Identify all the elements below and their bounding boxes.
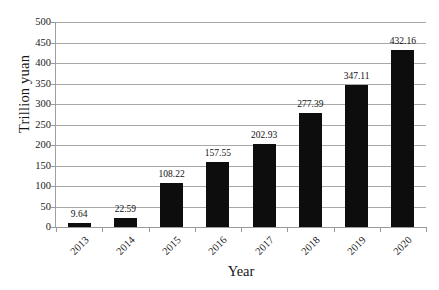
x-tick-label: 2018: [299, 234, 322, 257]
x-tick-label: 2017: [253, 234, 276, 257]
gridline: [56, 125, 426, 126]
y-tick-mark: [51, 207, 56, 208]
bar[interactable]: [160, 183, 183, 227]
x-tick-label: 2020: [392, 234, 415, 257]
bar-value-label: 202.93: [234, 131, 294, 141]
gridline: [56, 145, 426, 146]
y-tick-mark: [51, 63, 56, 64]
y-tick-label: 400: [21, 58, 51, 69]
x-tick-mark: [426, 227, 427, 232]
x-tick-label: 2019: [345, 234, 368, 257]
y-tick-label: 250: [21, 120, 51, 131]
gridline: [56, 84, 426, 85]
bar-value-label: 22.59: [95, 205, 155, 215]
gridline: [56, 63, 426, 64]
x-tick-mark: [380, 227, 381, 232]
bar[interactable]: [391, 50, 414, 227]
x-axis-tick-labels: 20132014201520162017201820192020: [56, 227, 426, 263]
x-tick-mark: [56, 227, 57, 232]
x-tick-label: 2015: [160, 234, 183, 257]
y-tick-mark: [51, 166, 56, 167]
x-tick-label-wrap: 2017: [244, 235, 284, 253]
y-tick-mark: [51, 145, 56, 146]
gridline: [56, 22, 426, 23]
gridline: [56, 186, 426, 187]
bar[interactable]: [206, 162, 229, 227]
bar-value-label: 108.22: [142, 170, 202, 180]
x-tick-mark: [287, 227, 288, 232]
y-tick-mark: [51, 84, 56, 85]
y-tick-mark: [51, 22, 56, 23]
x-tick-label-wrap: 2013: [59, 235, 99, 253]
x-tick-label: 2014: [114, 234, 137, 257]
y-tick-mark: [51, 186, 56, 187]
y-tick-label: 450: [21, 38, 51, 49]
x-tick-mark: [334, 227, 335, 232]
x-tick-label-wrap: 2015: [152, 235, 192, 253]
bar[interactable]: [299, 113, 322, 227]
y-axis-tick-labels: 500450400350300250200150100500: [19, 22, 51, 227]
bar[interactable]: [114, 218, 137, 227]
gridline: [56, 43, 426, 44]
gridline: [56, 104, 426, 105]
y-tick-label: 350: [21, 79, 51, 90]
y-tick-label: 50: [21, 202, 51, 213]
x-tick-label-wrap: 2019: [337, 235, 377, 253]
x-tick-mark: [102, 227, 103, 232]
y-tick-label: 0: [21, 222, 51, 233]
y-tick-mark: [51, 43, 56, 44]
y-tick-label: 300: [21, 99, 51, 110]
bar-value-label: 432.16: [373, 37, 433, 47]
y-tick-label: 150: [21, 161, 51, 172]
x-tick-label: 2016: [207, 234, 230, 257]
y-tick-label: 100: [21, 181, 51, 192]
x-tick-mark: [241, 227, 242, 232]
x-tick-label-wrap: 2014: [105, 235, 145, 253]
y-tick-mark: [51, 104, 56, 105]
bar-value-label: 277.39: [280, 100, 340, 110]
bar[interactable]: [345, 85, 368, 227]
x-tick-mark: [149, 227, 150, 232]
x-axis-title: Year: [56, 263, 426, 280]
bar[interactable]: [253, 144, 276, 227]
y-tick-mark: [51, 125, 56, 126]
gridline: [56, 166, 426, 167]
x-tick-label-wrap: 2016: [198, 235, 238, 253]
x-tick-label-wrap: 2020: [383, 235, 423, 253]
x-tick-label: 2013: [68, 234, 91, 257]
plot-area: 9.6422.59108.22157.55202.93277.39347.114…: [56, 22, 426, 227]
x-tick-label-wrap: 2018: [290, 235, 330, 253]
y-tick-label: 200: [21, 140, 51, 151]
bar-value-label: 157.55: [188, 149, 248, 159]
y-tick-label: 500: [21, 17, 51, 28]
x-tick-mark: [195, 227, 196, 232]
bar-chart: Trillion yuan 50045040035030025020015010…: [0, 0, 439, 290]
bar-value-label: 347.11: [327, 72, 387, 82]
